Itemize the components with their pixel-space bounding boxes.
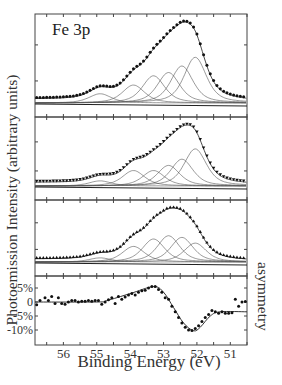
asymmetry-data-point <box>187 329 190 332</box>
asymmetry-data-point <box>117 295 120 298</box>
data-point <box>232 93 235 96</box>
data-point <box>165 32 168 35</box>
data-point <box>219 252 222 255</box>
asymmetry-data-point <box>207 313 210 316</box>
data-point <box>199 138 202 141</box>
data-point <box>195 33 198 36</box>
data-point <box>169 29 172 32</box>
data-point <box>182 20 185 23</box>
data-point <box>98 250 101 253</box>
fit-component-curve <box>35 243 246 262</box>
data-point <box>242 256 245 259</box>
data-point <box>239 256 242 259</box>
data-point <box>212 167 215 170</box>
data-point <box>175 23 178 26</box>
data-point <box>129 71 132 74</box>
data-point <box>42 256 45 259</box>
data-point <box>105 85 108 88</box>
asymmetry-data-point <box>120 298 123 301</box>
asymmetry-data-point <box>35 303 38 306</box>
asymmetry-data-point <box>204 316 207 319</box>
data-point <box>225 254 228 257</box>
data-point <box>209 72 212 75</box>
data-point <box>119 81 122 84</box>
data-point <box>85 90 88 93</box>
asymmetry-data-point <box>240 301 243 304</box>
fit-component-curve <box>35 73 246 103</box>
asymmetry-data-point <box>87 299 90 302</box>
asymmetry-data-point <box>100 303 103 306</box>
data-point <box>78 254 81 257</box>
asymmetry-data-point <box>90 300 93 303</box>
data-point <box>108 249 111 252</box>
chart-title: Fe 3p <box>52 20 90 40</box>
data-point <box>72 255 75 258</box>
asymmetry-data-point <box>97 299 100 302</box>
data-point <box>222 90 225 93</box>
asymmetry-data-point <box>80 300 83 303</box>
baseline <box>35 263 247 265</box>
asymmetry-data-point <box>130 292 133 295</box>
data-point <box>65 95 68 98</box>
data-point <box>82 92 85 95</box>
baseline <box>35 104 247 106</box>
asymmetry-data-point <box>50 295 53 298</box>
data-point <box>215 84 218 87</box>
data-point <box>205 64 208 67</box>
asymmetry-data-point <box>234 298 237 301</box>
data-point <box>202 53 205 56</box>
spectra-curves <box>35 20 247 332</box>
data-point <box>52 96 55 99</box>
data-point <box>235 94 238 97</box>
asymmetry-data-point <box>227 312 230 315</box>
asymmetry-data-point <box>64 303 67 306</box>
asymmetry-data-point <box>94 299 97 302</box>
data-point <box>88 252 91 255</box>
data-point <box>125 75 128 78</box>
asymmetry-data-point <box>184 326 187 329</box>
data-point <box>165 207 168 210</box>
asymmetry-data-point <box>47 299 50 302</box>
data-point <box>52 256 55 259</box>
asymmetry-data-point <box>57 296 60 299</box>
asymmetry-data-point <box>137 291 140 294</box>
data-point <box>135 65 138 68</box>
data-point <box>42 96 45 99</box>
asymmetry-data-point <box>77 301 80 304</box>
asymmetry-data-point <box>114 302 117 305</box>
data-point <box>95 85 98 88</box>
data-point <box>62 256 65 259</box>
data-point <box>235 256 238 259</box>
data-point <box>45 96 48 99</box>
asymmetry-data-point <box>67 301 70 304</box>
asymmetry-data-point <box>237 305 240 308</box>
asymmetry-data-point <box>110 296 113 299</box>
asymmetry-data-point <box>180 322 183 325</box>
data-point <box>99 84 102 87</box>
y-axis-label: Photoemission Intensity (arbitrary units… <box>3 75 21 326</box>
data-point <box>58 256 61 259</box>
data-point <box>38 256 41 259</box>
asymmetry-data-point <box>104 301 107 304</box>
x-axis-label: Binding Energy (eV) <box>0 352 282 372</box>
asymmetry-data-point <box>107 298 110 301</box>
asymmetry-data-point <box>244 300 247 303</box>
data-point <box>48 256 51 259</box>
baseline <box>35 187 247 189</box>
asymmetry-data-point <box>164 296 167 299</box>
asymmetry-data-point <box>144 289 147 292</box>
asymmetry-data-point <box>220 310 223 313</box>
data-point <box>149 51 152 54</box>
data-point <box>205 155 208 158</box>
asymmetry-data-point <box>217 312 220 315</box>
data-point <box>85 253 88 256</box>
data-point <box>122 78 125 81</box>
asymmetry-data-point <box>154 285 157 288</box>
total-fit-curve <box>35 208 246 259</box>
data-point <box>222 253 225 256</box>
data-point <box>195 131 198 134</box>
asymmetry-data-point <box>210 309 213 312</box>
data-point <box>172 26 175 29</box>
asymmetry-data-point <box>200 320 203 323</box>
asymmetry-data-point <box>197 324 200 327</box>
